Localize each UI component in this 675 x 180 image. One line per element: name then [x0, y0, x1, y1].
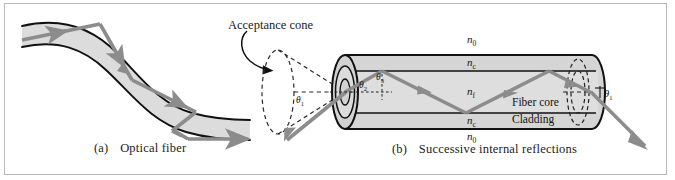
- index-label-n0-top: n0: [467, 33, 476, 48]
- index-label-nc-top: nc: [467, 56, 476, 71]
- panel-b-caption-text: Successive internal reflections: [419, 142, 577, 156]
- angle-label-theta2: θ2: [359, 80, 367, 92]
- optical-fiber-figure: (a) Optical fiber: [0, 0, 675, 180]
- panel-b-caption-label: (b): [392, 142, 407, 156]
- index-label-nc-bottom: nc: [467, 114, 476, 129]
- angle-label-theta3: θ3: [376, 72, 384, 84]
- cladding-label: Cladding: [512, 113, 554, 125]
- angle-label-theta1-entrance: θ1: [296, 95, 304, 107]
- acceptance-cone-leader: [242, 31, 274, 75]
- index-label-nf-core: nf: [467, 85, 475, 100]
- fiber-core-label: Fiber core: [512, 96, 559, 108]
- panel-b-caption: (b) Successive internal reflections: [392, 142, 577, 157]
- angle-label-theta1-exit: θ1: [604, 88, 612, 101]
- acceptance-cone-label: Acceptance cone: [228, 18, 313, 33]
